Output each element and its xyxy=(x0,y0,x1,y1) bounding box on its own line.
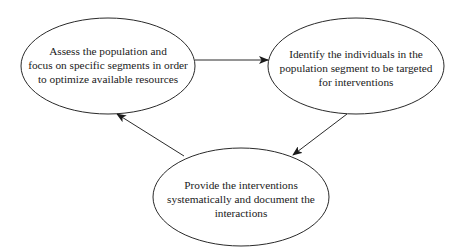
edge-identify-to-provide-arrow xyxy=(293,114,347,155)
edge-provide-to-assess-arrow xyxy=(117,114,184,156)
node-provide-line-2: systematically and document the xyxy=(153,192,329,206)
node-provide-label: Provide the interventions systematically… xyxy=(153,178,329,220)
node-assess-line-1: Assess the population and xyxy=(21,44,195,58)
node-assess-label: Assess the population and focus on speci… xyxy=(21,44,195,86)
node-identify-line-1: Identify the individuals in the xyxy=(268,47,444,61)
node-identify-line-3: for interventions xyxy=(268,75,444,89)
node-identify-label: Identify the individuals in the populati… xyxy=(268,47,444,89)
node-assess-line-2: focus on specific segments in order xyxy=(21,58,195,72)
node-identify-line-2: population segment to be targeted xyxy=(268,61,444,75)
node-assess-line-3: to optimize available resources xyxy=(21,72,195,86)
node-provide-line-1: Provide the interventions xyxy=(153,178,329,192)
node-provide-line-3: interactions xyxy=(153,206,329,220)
